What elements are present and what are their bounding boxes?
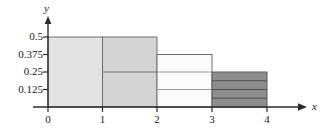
- chart-canvas: [0, 0, 326, 131]
- x-tick-label-0: 0: [38, 114, 58, 125]
- histogram-chart: 0.5 0.375 0.25 0.125 0 1 2 3 4 y x: [0, 0, 326, 131]
- y-tick-label-1: 0.375: [0, 49, 43, 60]
- bar-2-3: [157, 55, 212, 108]
- y-axis-ticks: [43, 37, 48, 90]
- x-tick-label-3: 3: [202, 114, 222, 125]
- x-axis-label: x: [312, 101, 317, 112]
- y-axis-label: y: [44, 3, 49, 14]
- bar-0-1: [48, 37, 103, 107]
- y-tick-label-2: 0.25: [0, 66, 43, 77]
- x-tick-label-1: 1: [93, 114, 113, 125]
- y-tick-label-3: 0.125: [0, 84, 43, 95]
- x-tick-label-2: 2: [147, 114, 167, 125]
- y-tick-label-0: 0.5: [0, 31, 43, 42]
- x-axis-ticks: [48, 107, 267, 112]
- x-tick-label-4: 4: [257, 114, 277, 125]
